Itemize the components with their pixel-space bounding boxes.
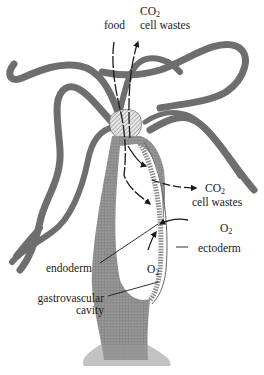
gastrovascular-line1: gastrovascular bbox=[32, 292, 104, 304]
co2-subscript: 2 bbox=[156, 10, 160, 19]
label-top-cell-wastes: cell wastes bbox=[140, 19, 190, 31]
label-gastrovascular-cavity: gastrovascular cavity bbox=[32, 292, 104, 316]
label-right-o2: O2 bbox=[220, 222, 232, 234]
label-right-co2: CO2 bbox=[205, 182, 225, 194]
hydra-diagram: CO2 food cell wastes CO2 cell wastes O2 … bbox=[0, 0, 264, 375]
o2-subscript: 2 bbox=[228, 227, 232, 236]
o2-subscript: 2 bbox=[155, 268, 159, 277]
label-food: food bbox=[104, 19, 125, 31]
label-inner-o2: O2 bbox=[147, 263, 159, 275]
label-top-co2: CO2 bbox=[140, 5, 160, 17]
o2-right-arrow bbox=[160, 219, 188, 224]
co2-text: CO bbox=[140, 5, 156, 17]
hypostome bbox=[110, 109, 142, 140]
co2-text: CO bbox=[205, 182, 221, 194]
label-right-cell-wastes: cell wastes bbox=[192, 196, 242, 208]
co2-subscript: 2 bbox=[221, 187, 225, 196]
label-endoderm: endoderm bbox=[46, 262, 92, 274]
body-column bbox=[83, 136, 171, 366]
label-ectoderm: ectoderm bbox=[198, 242, 241, 254]
gastrovascular-line2: cavity bbox=[32, 304, 104, 316]
